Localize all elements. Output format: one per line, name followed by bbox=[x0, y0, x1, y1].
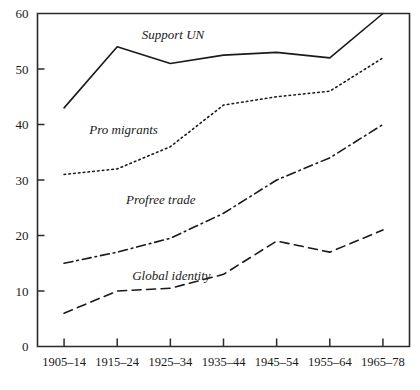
y-tick-label: 10 bbox=[16, 284, 29, 299]
x-tick-label: 1965–78 bbox=[361, 355, 405, 369]
x-tick-label: 1935–44 bbox=[202, 355, 247, 369]
series-label-pro-migrants: Pro migrants bbox=[88, 122, 158, 137]
x-axis-tick-labels: 1905–141915–241925–341935–441945–541955–… bbox=[42, 355, 405, 369]
line-chart: 0102030405060 1905–141915–241925–341935–… bbox=[0, 0, 420, 390]
y-tick-label: 60 bbox=[16, 6, 29, 21]
x-axis-ticks bbox=[64, 339, 383, 347]
x-tick-label: 1905–14 bbox=[42, 355, 87, 369]
series-label-support-un: Support UN bbox=[142, 27, 206, 42]
chart-canvas: 0102030405060 1905–141915–241925–341935–… bbox=[0, 0, 420, 390]
y-tick-label: 20 bbox=[16, 228, 29, 243]
axis-frame bbox=[38, 14, 410, 347]
y-tick-label: 30 bbox=[16, 173, 29, 188]
plot-border bbox=[38, 14, 410, 347]
x-tick-label: 1955–64 bbox=[308, 355, 353, 369]
series-line-pro-migrants bbox=[64, 58, 383, 175]
series-label-global-identity: Global identity bbox=[132, 268, 211, 283]
y-axis-ticks bbox=[38, 69, 45, 291]
y-tick-label: 50 bbox=[16, 62, 29, 77]
series-line-global-identity bbox=[64, 230, 383, 313]
series-label-profree-trade: Profree trade bbox=[125, 192, 196, 207]
x-tick-label: 1915–24 bbox=[95, 355, 140, 369]
x-tick-label: 1945–54 bbox=[255, 355, 300, 369]
y-axis-tick-labels: 0102030405060 bbox=[16, 6, 29, 354]
series-lines bbox=[64, 14, 383, 314]
y-tick-label: 0 bbox=[22, 339, 29, 354]
y-tick-label: 40 bbox=[16, 117, 29, 132]
series-line-support-un bbox=[64, 14, 383, 108]
series-line-profree-trade bbox=[64, 125, 383, 264]
x-tick-label: 1925–34 bbox=[148, 355, 193, 369]
